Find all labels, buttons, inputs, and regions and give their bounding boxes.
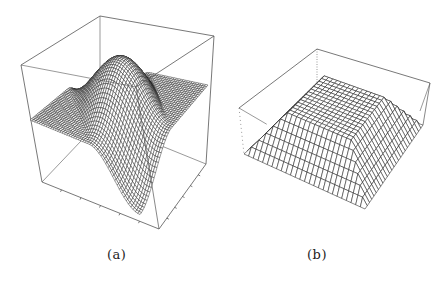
panel-a-caption: (a): [107, 247, 126, 262]
panel-a-surface-plot: [21, 16, 214, 229]
panel-b-pyramid-surface: [244, 76, 423, 209]
panel-b-surface-plot: [239, 49, 430, 209]
panel-a-wave-surface: [30, 56, 208, 215]
figure-canvas: [0, 0, 448, 281]
panel-b-caption: (b): [307, 247, 327, 262]
